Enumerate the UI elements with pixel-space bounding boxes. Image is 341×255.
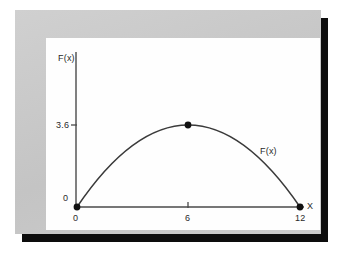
marker-origin: [74, 204, 81, 211]
figure-frame: F(x) 3.6 0 0 6 12 X F(x): [15, 10, 321, 234]
plot-area: [46, 38, 320, 230]
x-tick-label-12: 12: [295, 213, 305, 223]
x-axis-label: X: [307, 201, 313, 211]
marker-right-root: [297, 204, 304, 211]
marker-maximum: [185, 122, 192, 129]
y-axis-label: F(x): [58, 53, 75, 63]
x-tick-label-6: 6: [185, 213, 190, 223]
plot-panel: F(x) 3.6 0 0 6 12 X F(x): [46, 38, 320, 230]
figure-container: F(x) 3.6 0 0 6 12 X F(x): [0, 0, 341, 255]
function-curve: [77, 125, 300, 207]
curve-label: F(x): [260, 146, 277, 156]
x-tick-label-0: 0: [73, 213, 78, 223]
y-tick-label-3point6: 3.6: [56, 120, 69, 130]
y-tick-label-0: 0: [63, 193, 68, 203]
